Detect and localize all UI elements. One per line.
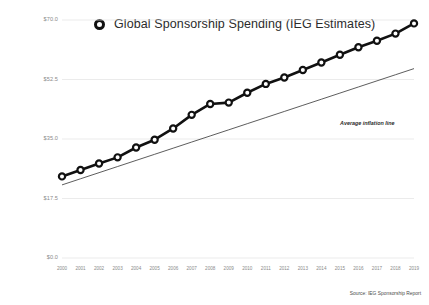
data-point-marker xyxy=(355,44,361,50)
x-tick-label: 2019 xyxy=(409,266,419,271)
data-point-marker xyxy=(114,154,120,160)
x-tick-label: 2010 xyxy=(242,266,252,271)
x-axis: 2000200120022003200420052006200720082009… xyxy=(0,266,429,276)
x-tick-label: 2001 xyxy=(75,266,85,271)
x-tick-label: 2018 xyxy=(390,266,400,271)
data-point-marker xyxy=(244,90,250,96)
x-tick-label: 2004 xyxy=(131,266,141,271)
data-point-marker xyxy=(300,67,306,73)
data-point-marker xyxy=(207,101,213,107)
x-tick-label: 2014 xyxy=(316,266,326,271)
x-tick-label: 2008 xyxy=(205,266,215,271)
x-tick-label: 2013 xyxy=(298,266,308,271)
inflation-trend-line xyxy=(62,69,414,185)
data-point-marker xyxy=(318,59,324,65)
data-point-marker xyxy=(77,167,83,173)
x-tick-label: 2002 xyxy=(94,266,104,271)
data-point-marker xyxy=(189,112,195,118)
x-tick-label: 2007 xyxy=(187,266,197,271)
x-tick-label: 2009 xyxy=(224,266,234,271)
data-point-marker xyxy=(59,173,65,179)
data-point-marker xyxy=(411,20,417,26)
x-tick-label: 2011 xyxy=(261,266,271,271)
sponsorship-spending-chart: Global Sponsorship Spending (IEG Estimat… xyxy=(0,0,429,305)
plot-area xyxy=(0,0,429,305)
data-point-marker xyxy=(226,100,232,106)
data-point-marker xyxy=(374,38,380,44)
data-point-marker xyxy=(337,52,343,58)
x-tick-label: 2015 xyxy=(335,266,345,271)
inflation-line-annotation: Average inflation line xyxy=(340,120,395,126)
data-point-marker xyxy=(152,137,158,143)
x-tick-label: 2000 xyxy=(57,266,67,271)
x-tick-label: 2003 xyxy=(112,266,122,271)
source-note: Source: IEG Sponsorship Report xyxy=(350,291,421,296)
data-point-marker xyxy=(392,30,398,36)
x-tick-label: 2017 xyxy=(372,266,382,271)
x-tick-label: 2016 xyxy=(353,266,363,271)
data-point-marker xyxy=(263,81,269,87)
data-point-marker xyxy=(96,160,102,166)
data-point-marker xyxy=(133,144,139,150)
x-tick-label: 2005 xyxy=(150,266,160,271)
x-tick-label: 2006 xyxy=(168,266,178,271)
x-tick-label: 2012 xyxy=(279,266,289,271)
data-point-marker xyxy=(281,74,287,80)
data-point-marker xyxy=(170,125,176,131)
gridlines xyxy=(62,20,414,258)
